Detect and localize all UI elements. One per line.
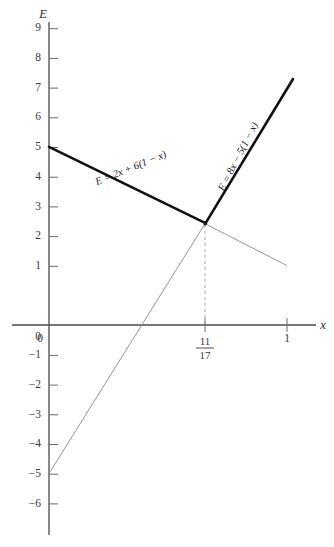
y-tick-label-group: 9 8 7 6 5 4 3 2 1 0 −1 −2 −3 −4 −5 −6 <box>29 21 42 509</box>
x-axis-label: x <box>319 318 326 332</box>
x-tick-label-fraction: 11 17 <box>196 335 214 361</box>
y-tick-label-neg4: −4 <box>29 437 41 449</box>
y-tick-group <box>49 29 58 504</box>
y-tick-label-6: 6 <box>35 110 41 122</box>
y-tick-label-3: 3 <box>35 200 41 212</box>
origin-label: 0 <box>37 332 43 344</box>
series-1-thin-extension <box>205 224 287 266</box>
series-1-bold-segment <box>49 147 206 224</box>
fraction-numerator: 11 <box>200 335 211 347</box>
series-2-bold-segment <box>205 79 293 224</box>
y-tick-label-neg2: −2 <box>29 378 41 390</box>
series-1-equation-label: E = 2x + 6(1 − x) <box>93 148 169 188</box>
y-tick-label-2: 2 <box>35 229 41 241</box>
y-tick-label-7: 7 <box>35 81 41 93</box>
y-tick-label-neg1: −1 <box>29 348 41 360</box>
fraction-denominator: 17 <box>200 349 212 361</box>
series-2-equation-label: E = 8x − 5(1 − x) <box>215 120 261 194</box>
y-axis-label: E <box>38 7 47 21</box>
y-tick-label-neg5: −5 <box>29 467 41 479</box>
y-tick-label-9: 9 <box>35 21 41 33</box>
series-2-thin-extension <box>49 224 205 474</box>
y-tick-label-neg6: −6 <box>29 497 41 509</box>
x-tick-label-one: 1 <box>284 332 290 344</box>
economics-line-chart: E x 9 8 7 6 5 4 3 2 1 0 −1 −2 −3 −4 −5 −… <box>0 0 334 547</box>
y-tick-label-1: 1 <box>35 259 41 271</box>
y-tick-label-4: 4 <box>35 170 41 182</box>
y-tick-label-5: 5 <box>35 140 41 152</box>
y-tick-label-neg3: −3 <box>29 408 41 420</box>
y-tick-label-8: 8 <box>35 51 41 63</box>
